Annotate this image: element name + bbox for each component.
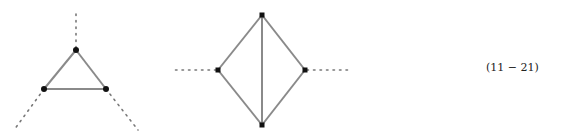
internal-edge: [218, 15, 262, 70]
vertex-dot: [260, 123, 265, 128]
diamond-diagram: [174, 13, 350, 128]
vertex-dot: [41, 86, 47, 92]
vertex-dot: [103, 86, 109, 92]
equation-number: (11 − 21): [486, 61, 539, 74]
internal-edge: [262, 15, 305, 70]
vertex-dot: [73, 47, 79, 53]
vertex-dot: [260, 13, 265, 18]
vertex-dot: [303, 68, 308, 73]
external-line-left: [14, 89, 44, 130]
internal-edge: [76, 50, 106, 89]
feynman-diagrams: [0, 0, 562, 136]
internal-edge: [262, 70, 305, 125]
external-line-right: [106, 89, 138, 130]
internal-edge: [218, 70, 262, 125]
vertex-dot: [216, 68, 221, 73]
internal-edge: [44, 50, 76, 89]
triangle-diagram: [14, 10, 138, 130]
